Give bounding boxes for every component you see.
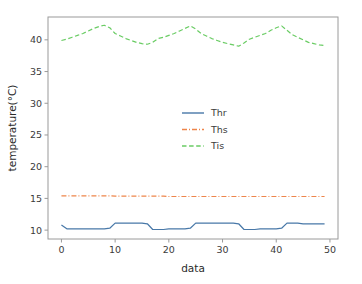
legend-label-tis: Tis	[210, 140, 224, 151]
y-tick-label: 30	[30, 98, 42, 109]
y-tick-label: 35	[30, 66, 42, 77]
y-tick-label: 10	[30, 225, 42, 236]
x-tick-label: 40	[270, 244, 282, 255]
line-chart: 10152025303540 01020304050 data temperat…	[0, 0, 362, 284]
legend-label-ths: Ths	[210, 124, 228, 135]
chart-figure: 10152025303540 01020304050 data temperat…	[0, 0, 362, 284]
x-tick-label: 0	[58, 244, 64, 255]
y-tick-label: 15	[30, 193, 42, 204]
y-tick-label: 20	[30, 161, 42, 172]
legend-label-thr: Thr	[210, 107, 227, 118]
y-tick-label: 40	[30, 34, 42, 45]
x-tick-label: 20	[163, 244, 175, 255]
plot-area-background	[48, 17, 338, 239]
x-tick-label: 10	[109, 244, 121, 255]
y-axis-title: temperature(°C)	[6, 85, 18, 172]
y-tick-label: 25	[30, 129, 42, 140]
x-axis-title: data	[181, 262, 205, 274]
x-tick-label: 30	[216, 244, 228, 255]
x-tick-label: 50	[324, 244, 336, 255]
